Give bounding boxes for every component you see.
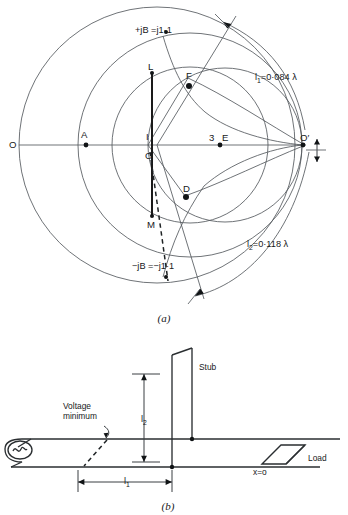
label-point-m: M [147, 219, 155, 230]
label-x-equals-zero: x=o [253, 467, 267, 477]
line-left-connector-top [18, 439, 31, 447]
caption-figure-b: (b) [162, 500, 175, 513]
label-point-3: 3 [209, 132, 214, 143]
label-stub: Stub [199, 362, 217, 372]
point-dot-susceptance-neg [164, 275, 168, 279]
label-voltage-minimum-line2: minimum [63, 411, 97, 421]
label-point-o: O [9, 139, 16, 150]
label-voltage-minimum-line1: Voltage [63, 401, 91, 411]
label-dimension-l2-subscript: 2 [143, 419, 147, 426]
point-dot-m [150, 214, 154, 218]
label-length-l2-value: =0·118 λ [253, 239, 289, 249]
label-length-l1-value: =0·084 λ [261, 72, 297, 82]
load-element [262, 445, 305, 464]
radial-line-l2 [157, 145, 204, 299]
label-point-a: A [81, 129, 88, 140]
stub-junction-dot-top [190, 437, 194, 441]
point-dot-a [84, 143, 89, 148]
point-dot-oprime [301, 143, 306, 148]
label-point-e: E [222, 132, 228, 143]
smith-chart-diagram: O A I C L F D M 3 E O′ +jB =j1·1 −jB =−j… [0, 0, 348, 330]
transmission-line-diagram: Voltage minimum Stub Load x=o l1 l2 (b) [0, 330, 348, 515]
arrowhead-l2-down [141, 456, 147, 462]
label-point-f: F [186, 70, 192, 81]
label-dimension-l1: l1 [124, 476, 130, 488]
point-dot-e [218, 143, 223, 148]
point-dot-d [183, 194, 189, 200]
stub-top-edge [172, 348, 192, 355]
stub-junction-dot-bottom [170, 465, 174, 469]
tick-l2-start [188, 289, 200, 304]
label-length-l2: l2=0·118 λ [247, 239, 289, 251]
label-point-i: I [146, 131, 149, 142]
label-point-l: L [148, 61, 154, 72]
label-susceptance-negative: −jB =−j1·1 [132, 261, 174, 271]
figure-container: O A I C L F D M 3 E O′ +jB =j1·1 −jB =−j… [0, 0, 348, 515]
arrowhead-oprime-down [314, 156, 320, 162]
arrowhead-l1-right [166, 479, 172, 485]
label-point-d: D [183, 183, 190, 194]
label-susceptance-positive: +jB =j1·1 [135, 25, 172, 35]
caption-figure-a: (a) [158, 312, 171, 325]
label-dimension-l1-subscript: 1 [126, 481, 130, 488]
construction-line-c-to-f [148, 78, 188, 145]
label-point-c: C [145, 150, 152, 161]
arrowhead-oprime-up [314, 139, 320, 145]
arrowhead-l1-left [78, 479, 84, 485]
load-edge-right [286, 445, 305, 464]
voltage-minimum-plane [84, 440, 107, 466]
sine-wave-icon [13, 447, 27, 451]
point-dot-f [186, 83, 192, 89]
construction-line-c-to-d [148, 145, 185, 196]
label-length-l1: l1=0·084 λ [255, 72, 297, 84]
label-point-oprime: O′ [300, 132, 309, 143]
reactance-arc-from-f [188, 78, 303, 144]
arrowhead-l2-up [141, 374, 147, 380]
label-load: Load [308, 453, 327, 463]
reactance-arc-positive [163, 36, 303, 145]
